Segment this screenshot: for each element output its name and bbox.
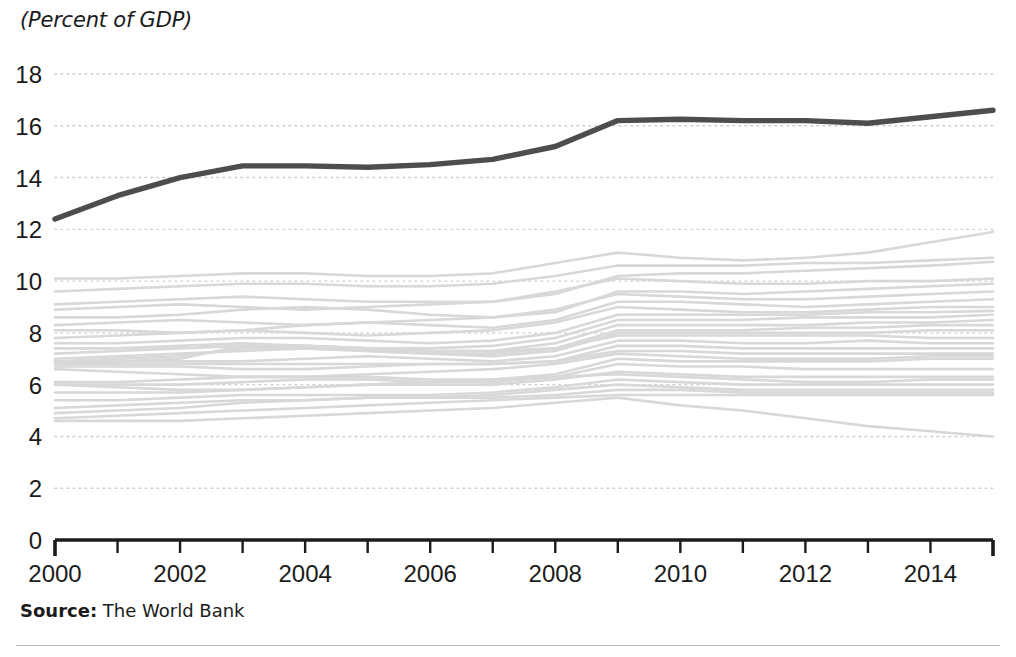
x-tick-label: 2014 [904,560,957,587]
x-tick-label: 2012 [779,560,832,587]
y-tick-label: 2 [29,475,42,502]
x-tick-label: 2004 [278,560,331,587]
background-series-lines [55,232,993,437]
chart-plot-area: 024681012141618 200020022004200620082010… [0,0,1016,600]
x-tick-label: 2008 [529,560,582,587]
y-tick-label: 14 [15,165,42,192]
x-tick-label: 2000 [28,560,81,587]
y-tick-label: 0 [29,527,42,554]
bottom-divider [16,645,1000,646]
x-axis [55,540,993,556]
y-tick-label: 10 [15,268,42,295]
x-tick-label: 2010 [654,560,707,587]
background-line [55,232,993,279]
source-label: Source: [20,600,97,621]
y-tick-label: 4 [29,423,42,450]
x-axis-tick-labels: 20002002200420062008201020122014 [28,560,957,587]
y-axis-tick-labels: 024681012141618 [15,61,42,554]
source-note: Source: The World Bank [20,600,245,621]
chart-figure: (Percent of GDP) 024681012141618 2000200… [0,0,1016,657]
y-tick-label: 6 [29,372,42,399]
y-tick-label: 8 [29,320,42,347]
y-tick-label: 16 [15,113,42,140]
x-tick-label: 2006 [404,560,457,587]
y-tick-label: 12 [15,216,42,243]
source-value: The World Bank [97,600,244,621]
x-tick-label: 2002 [153,560,206,587]
highlighted-series-line [55,110,993,219]
y-tick-label: 18 [15,61,42,88]
highlighted-line [55,110,993,219]
